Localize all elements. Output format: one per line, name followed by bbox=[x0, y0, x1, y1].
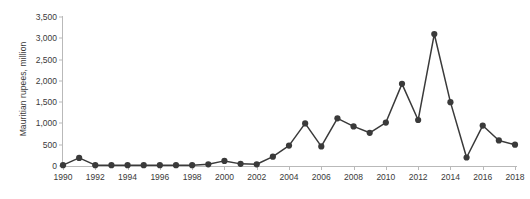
data-point-marker bbox=[124, 162, 130, 168]
x-tick-label: 1996 bbox=[150, 172, 169, 182]
data-point-marker bbox=[350, 123, 356, 129]
data-point-marker bbox=[431, 31, 437, 37]
data-point-marker bbox=[205, 161, 211, 167]
x-tick-label: 2006 bbox=[312, 172, 331, 182]
data-point-marker bbox=[60, 162, 66, 168]
data-point-marker bbox=[286, 142, 292, 148]
x-tick-label: 2002 bbox=[247, 172, 266, 182]
x-tick-mark bbox=[321, 166, 322, 170]
x-tick-mark bbox=[450, 166, 451, 170]
data-point-marker bbox=[367, 130, 373, 136]
data-point-marker bbox=[157, 162, 163, 168]
x-tick-mark bbox=[418, 166, 419, 170]
data-point-marker bbox=[496, 137, 502, 143]
data-point-marker bbox=[463, 154, 469, 160]
y-axis-title: Mauritian rupees, million bbox=[18, 14, 28, 164]
data-point-marker bbox=[173, 162, 179, 168]
x-tick-label: 2010 bbox=[376, 172, 395, 182]
data-point-marker bbox=[108, 162, 114, 168]
x-tick-label: 2012 bbox=[409, 172, 428, 182]
data-point-marker bbox=[383, 119, 389, 125]
x-tick-label: 1994 bbox=[118, 172, 137, 182]
data-point-marker bbox=[270, 154, 276, 160]
line-series bbox=[63, 17, 515, 166]
x-tick-label: 2014 bbox=[441, 172, 460, 182]
data-point-marker bbox=[399, 81, 405, 87]
plot-area: 05001,0001,5002,0002,5003,0003,500 19901… bbox=[63, 17, 515, 166]
data-point-marker bbox=[141, 162, 147, 168]
chart-container: Mauritian rupees, million 05001,0001,500… bbox=[0, 0, 530, 199]
x-tick-label: 1990 bbox=[54, 172, 73, 182]
data-point-marker bbox=[480, 122, 486, 128]
data-point-marker bbox=[189, 162, 195, 168]
x-tick-label: 2000 bbox=[215, 172, 234, 182]
data-point-marker bbox=[334, 115, 340, 121]
x-tick-mark bbox=[515, 166, 516, 170]
x-tick-label: 2018 bbox=[506, 172, 525, 182]
data-point-marker bbox=[92, 162, 98, 168]
data-point-marker bbox=[415, 117, 421, 123]
x-tick-label: 1992 bbox=[86, 172, 105, 182]
data-point-marker bbox=[254, 161, 260, 167]
x-tick-label: 1998 bbox=[183, 172, 202, 182]
x-tick-mark bbox=[354, 166, 355, 170]
data-point-marker bbox=[447, 99, 453, 105]
data-point-marker bbox=[512, 142, 518, 148]
x-tick-label: 2004 bbox=[280, 172, 299, 182]
data-point-marker bbox=[237, 161, 243, 167]
x-tick-mark bbox=[386, 166, 387, 170]
data-point-marker bbox=[221, 158, 227, 164]
x-tick-mark bbox=[224, 166, 225, 170]
data-point-marker bbox=[318, 143, 324, 149]
x-tick-mark bbox=[483, 166, 484, 170]
x-tick-label: 2016 bbox=[473, 172, 492, 182]
data-point-marker bbox=[302, 120, 308, 126]
x-tick-mark bbox=[289, 166, 290, 170]
x-tick-label: 2008 bbox=[344, 172, 363, 182]
data-point-marker bbox=[76, 155, 82, 161]
